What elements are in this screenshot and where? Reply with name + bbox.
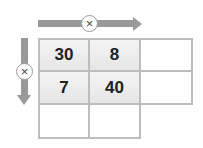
grid-cell-r2-c2: 40 [88,70,141,105]
grid-cell-r3-c2 [88,103,141,139]
grid-cell-r2-c3 [139,70,193,105]
times-icon: × [16,63,33,80]
grid-cell-r2-c1: 7 [38,70,90,105]
times-icon: × [81,15,98,32]
grid-cell-r1-c1: 30 [38,38,90,72]
arrow-right-icon [133,17,142,31]
grid-cell-r1-c2: 8 [88,38,141,72]
grid-cell-r1-c3 [139,38,193,72]
grid-cell-r3-c1 [38,103,90,139]
arrow-down-icon [17,95,31,105]
